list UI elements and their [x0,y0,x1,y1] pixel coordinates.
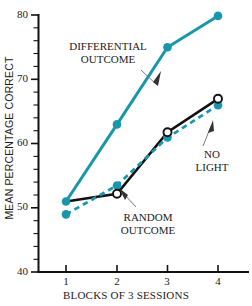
point-diff-b3 [163,43,172,52]
markers-open [113,95,222,198]
x-tick-label-1: 1 [56,275,76,287]
y-tick-label-80: 80 [8,8,28,20]
point-random-b4 [214,95,222,103]
annotation-nolight-line2: LIGHT [190,161,234,174]
point-nolight-b2 [113,181,122,190]
annotation-nolight-line1: NO [190,148,234,161]
annotation-no-light: NO LIGHT [190,148,234,173]
y-tick-label-70: 70 [8,72,28,84]
point-nolight-b1 [62,210,71,219]
chart-figure: MEAN PERCENTAGE CORRECT BLOCKS OF 3 SESS… [0,0,252,306]
annotation-random-line1: RANDOM [110,211,186,224]
y-tick-label-50: 50 [8,200,28,212]
x-ticks [66,265,218,272]
y-tick-label-40: 40 [8,265,28,277]
annotation-random-line2: OUTCOME [110,224,186,237]
annotation-random-outcome: RANDOM OUTCOME [110,211,186,236]
x-axis-title: BLOCKS OF 3 SESSIONS [0,289,252,301]
y-tick-label-60: 60 [8,136,28,148]
leader-differential-arrow [153,71,161,86]
annotation-differential-outcome: DIFFERENTIAL OUTCOME [62,40,154,65]
annotation-differential-line2: OUTCOME [62,53,154,66]
point-random-b2 [113,190,121,198]
point-diff-b2 [113,120,122,129]
x-tick-label-3: 3 [157,275,177,287]
point-random-b3 [164,128,172,136]
leader-nolight-arrow [208,120,214,133]
x-tick-label-4: 4 [208,275,228,287]
x-tick-label-2: 2 [107,275,127,287]
annotation-differential-line1: DIFFERENTIAL [62,40,154,53]
point-diff-b1 [62,197,71,206]
point-diff-b4 [214,12,223,21]
